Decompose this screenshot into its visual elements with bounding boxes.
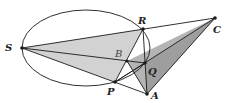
label-Q: Q (148, 66, 157, 77)
point-A (145, 92, 149, 96)
label-P: P (106, 86, 115, 97)
geometry-diagram: S R C B Q P A (0, 0, 231, 103)
point-Q (143, 61, 147, 65)
point-P (113, 80, 117, 84)
label-S: S (5, 42, 12, 53)
label-C: C (213, 24, 221, 35)
label-R: R (137, 15, 146, 26)
label-A: A (150, 90, 159, 101)
point-S (20, 46, 24, 50)
point-R (141, 27, 145, 31)
point-C (213, 16, 217, 20)
point-B (125, 59, 128, 62)
label-B: B (114, 48, 122, 59)
